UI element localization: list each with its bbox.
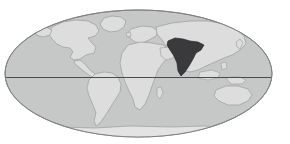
world-locator-map: World map locator India Mollweide ellipt… bbox=[0, 0, 290, 144]
world-map-graphic bbox=[0, 0, 290, 144]
southeast-asia-islands-shape bbox=[198, 70, 220, 80]
british-isles-shape bbox=[126, 32, 131, 37]
